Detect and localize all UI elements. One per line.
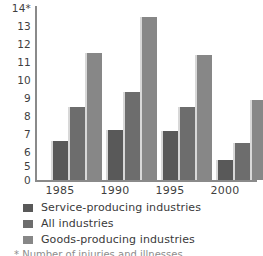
bar-chart-figure: 14* 13 12 11 10 9 8 7 6 5 0 (0, 0, 263, 256)
bar-body (108, 130, 123, 180)
y-tick-label: 5 (24, 161, 31, 171)
x-tick-label-2000: 2000 (195, 184, 255, 197)
bar-body (252, 100, 263, 180)
x-tick-label-1985: 1985 (30, 184, 90, 197)
bar-goods-producing-1995 (197, 55, 212, 180)
bar-goods-producing-1990 (142, 17, 157, 180)
bar-service-producing-1985 (53, 141, 68, 180)
chart-footnote: * Number of injuries and illnesses (14, 249, 263, 256)
bar-all-industries-1985 (70, 107, 85, 180)
bar-body (87, 53, 102, 180)
bar-service-producing-1995 (163, 131, 178, 180)
bar-body (142, 17, 157, 180)
bar-body (53, 141, 68, 180)
bar-body (197, 55, 212, 180)
y-tick-label: 6 (24, 147, 31, 157)
y-tick-label: 12 (17, 39, 31, 49)
legend-item-all-industries: All industries (22, 216, 258, 231)
x-axis-line (35, 180, 257, 182)
bar-body (218, 160, 233, 180)
x-axis-tick-labels: 1985 1990 1995 2000 (35, 184, 257, 200)
bar-all-industries-1990 (125, 92, 140, 180)
y-tick-label: 14* (12, 3, 31, 13)
y-axis-tick-labels: 14* 13 12 11 10 9 8 7 6 5 0 (0, 0, 33, 182)
bar-body (163, 131, 178, 180)
y-axis-line (35, 6, 37, 182)
bar-goods-producing-1985 (87, 53, 102, 180)
y-tick-label: 7 (24, 129, 31, 139)
y-tick-label: 10 (17, 75, 31, 85)
bar-body (125, 92, 140, 180)
legend-label: Goods-producing industries (41, 233, 195, 246)
y-tick-label: 9 (24, 93, 31, 103)
plot-area (35, 6, 257, 182)
x-tick-label-1995: 1995 (140, 184, 200, 197)
legend-item-goods-producing: Goods-producing industries (22, 232, 258, 247)
chart-legend: Service-producing industries All industr… (22, 200, 258, 248)
bar-body (235, 143, 250, 180)
y-tick-label: 11 (17, 57, 31, 67)
legend-label: Service-producing industries (41, 201, 201, 214)
bar-all-industries-1995 (180, 107, 195, 180)
legend-swatch-icon (22, 235, 34, 245)
x-tick-label-1990: 1990 (85, 184, 145, 197)
y-tick-label: 13 (17, 21, 31, 31)
legend-item-service-producing: Service-producing industries (22, 200, 258, 215)
bar-service-producing-1990 (108, 130, 123, 180)
bar-body (70, 107, 85, 180)
bar-goods-producing-2000 (252, 100, 263, 180)
legend-swatch-icon (22, 219, 34, 229)
legend-swatch-icon (22, 203, 34, 213)
legend-label: All industries (41, 217, 114, 230)
bar-body (180, 107, 195, 180)
bar-service-producing-2000 (218, 160, 233, 180)
bar-all-industries-2000 (235, 143, 250, 180)
y-tick-label: 8 (24, 111, 31, 121)
